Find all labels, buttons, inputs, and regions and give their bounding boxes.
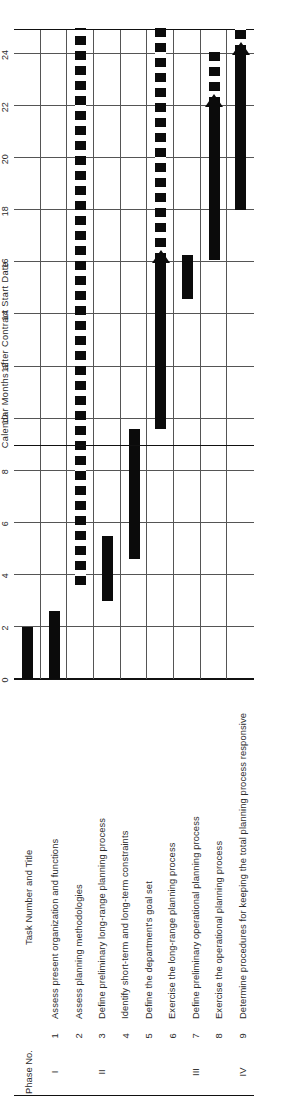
cell-task-title: Exercise the operational planning proces…: [213, 446, 224, 1023]
cell-task-number: 9: [237, 1023, 248, 1049]
task-bar-9: [235, 54, 246, 210]
header-phase-no: Phase No.: [23, 1049, 34, 1095]
cell-task-title: Define the department's goal set: [143, 446, 154, 1023]
cell-phase-no: I: [49, 1049, 60, 1095]
table-row[interactable]: 6Exercise the long-range planning proces…: [160, 446, 183, 1095]
cell-task-title: Exercise the long-range planning process: [166, 446, 177, 1023]
cell-phase-no: IV: [237, 1049, 248, 1095]
task-bar-6-continuation: [155, 28, 166, 262]
cell-task-title: Assess present organization and function…: [49, 446, 60, 1023]
cell-task-number: 3: [96, 1023, 107, 1049]
cell-task-number: 2: [73, 1023, 84, 1049]
cell-task-number: 7: [190, 1023, 201, 1049]
table-row[interactable]: I1Assess present organization and functi…: [43, 446, 66, 1095]
tick-label-16: 16: [0, 258, 10, 268]
cell-phase-no: III: [190, 1049, 201, 1095]
table-row[interactable]: II3Define preliminary long-range plannin…: [90, 446, 113, 1095]
milestone-arrow-9: [232, 42, 250, 55]
table-row[interactable]: III7Define preliminary operational plann…: [184, 446, 207, 1095]
task-bar-8: [209, 106, 220, 260]
header-task-number-and-title: Task Number and Title: [23, 446, 34, 1023]
milestone-arrow-8: [205, 94, 223, 107]
tick-label-14: 14: [0, 310, 10, 320]
table-row[interactable]: 5Define the department's goal set: [137, 446, 160, 1095]
cell-task-title: Define preliminary long-range planning p…: [96, 446, 107, 1023]
cell-task-number: 4: [120, 1023, 131, 1049]
task-bar-6: [155, 262, 166, 429]
cell-task-number: 1: [49, 1023, 60, 1049]
table-row[interactable]: 2Assess planning methodologies: [67, 446, 90, 1095]
tick-label-22: 22: [0, 102, 10, 112]
table-header-row: Phase No.Task Number and Title: [14, 446, 43, 1095]
task-bar-7: [182, 255, 193, 299]
table-row[interactable]: IV9Determine procedures for keeping the …: [231, 446, 254, 1095]
cell-task-number: 8: [213, 1023, 224, 1049]
tick-label-12: 12: [0, 363, 10, 373]
cell-task-title: Assess planning methodologies: [73, 446, 84, 1023]
cell-task-title: Identify short-term and long-term constr…: [119, 446, 130, 1023]
task-table-wrap: Phase No.Task Number and TitleI1Assess p…: [0, 416, 294, 1100]
task-table: Phase No.Task Number and TitleI1Assess p…: [14, 445, 254, 1096]
milestone-arrow-6: [152, 250, 170, 263]
cell-task-title: Define preliminary operational planning …: [190, 446, 201, 1023]
tick-label-24: 24: [0, 50, 10, 60]
tick-label-18: 18: [0, 206, 10, 216]
cell-phase-no: II: [96, 1049, 107, 1095]
tick-label-20: 20: [0, 154, 10, 164]
cell-task-number: 6: [167, 1023, 178, 1049]
table-row[interactable]: 4Identify short-term and long-term const…: [114, 446, 137, 1095]
table-row[interactable]: 8Exercise the operational planning proce…: [207, 446, 230, 1095]
cell-task-number: 5: [143, 1023, 154, 1049]
cell-task-title: Determine procedures for keeping the tot…: [237, 446, 248, 1023]
